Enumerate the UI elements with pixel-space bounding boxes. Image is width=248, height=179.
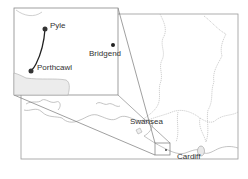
place-label-porthcawl: Porthcawl bbox=[37, 64, 72, 72]
pyle-marker bbox=[43, 27, 48, 32]
bridgend-marker bbox=[111, 43, 115, 47]
porthcawl-marker bbox=[29, 69, 34, 74]
place-label-bridgend: Bridgend bbox=[89, 50, 121, 58]
map-canvas bbox=[0, 0, 248, 179]
place-label-swansea: Swansea bbox=[130, 118, 163, 126]
place-label-cardiff: Cardiff bbox=[177, 153, 200, 161]
locator-point bbox=[165, 149, 167, 151]
place-label-pyle: Pyle bbox=[50, 22, 66, 30]
